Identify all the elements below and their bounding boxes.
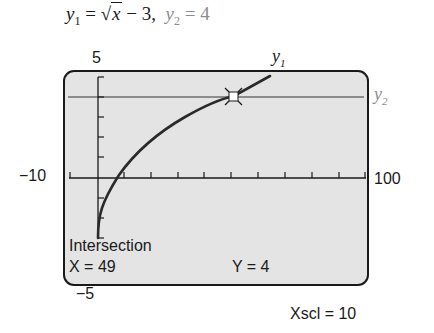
equals-sign: = bbox=[80, 3, 100, 24]
x-ticks bbox=[70, 172, 365, 178]
xmin-label: −10 bbox=[19, 167, 46, 185]
xscl-label: Xscl = 10 bbox=[290, 305, 356, 323]
chart-title: y1 = √x − 3, y2 = 4 bbox=[66, 3, 210, 29]
y-readout: Y = 4 bbox=[232, 258, 270, 276]
sqrt-icon: √ bbox=[101, 3, 111, 24]
eq2: = 4 bbox=[180, 3, 210, 24]
eq1-tail: − 3, bbox=[122, 3, 156, 24]
y1-curve-symbol: y bbox=[272, 46, 280, 66]
calculator-screen: Intersection X = 49 Y = 4 bbox=[63, 70, 369, 286]
ymax-label: 5 bbox=[92, 49, 101, 67]
y1-curve bbox=[98, 76, 270, 238]
status-text: Intersection bbox=[69, 237, 152, 255]
y2-curve-sub: 2 bbox=[382, 95, 388, 107]
y2-curve-label: y2 bbox=[374, 84, 388, 107]
ymin-label: −5 bbox=[76, 285, 94, 303]
radicand: x bbox=[111, 2, 121, 24]
y1-curve-sub: 1 bbox=[280, 57, 286, 69]
y1-curve-label: y1 bbox=[272, 46, 286, 69]
x-readout: X = 49 bbox=[69, 258, 116, 276]
xmax-label: 100 bbox=[374, 170, 401, 188]
y2-curve-symbol: y bbox=[374, 84, 382, 104]
y2-symbol: y bbox=[166, 3, 174, 24]
